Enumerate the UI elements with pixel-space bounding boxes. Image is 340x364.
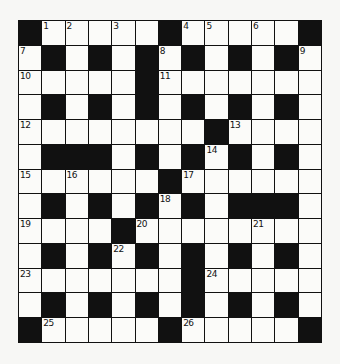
crossword-cell[interactable] [112, 194, 134, 218]
crossword-cell[interactable] [299, 194, 321, 218]
crossword-cell[interactable] [252, 145, 274, 169]
crossword-cell[interactable] [299, 219, 321, 243]
crossword-cell[interactable] [229, 269, 251, 293]
crossword-cell[interactable]: 22 [112, 244, 134, 268]
crossword-cell[interactable]: 16 [66, 170, 88, 194]
crossword-cell[interactable] [182, 120, 204, 144]
crossword-cell[interactable] [252, 244, 274, 268]
crossword-cell[interactable] [275, 21, 297, 45]
crossword-cell[interactable]: 19 [19, 219, 41, 243]
crossword-cell[interactable] [136, 21, 158, 45]
crossword-cell[interactable] [159, 219, 181, 243]
crossword-cell[interactable] [19, 145, 41, 169]
crossword-cell[interactable] [299, 244, 321, 268]
crossword-cell[interactable] [159, 120, 181, 144]
crossword-cell[interactable]: 2 [66, 21, 88, 45]
crossword-cell[interactable] [89, 219, 111, 243]
crossword-cell[interactable] [112, 95, 134, 119]
crossword-cell[interactable] [205, 95, 227, 119]
crossword-cell[interactable]: 10 [19, 71, 41, 95]
crossword-cell[interactable] [66, 194, 88, 218]
crossword-cell[interactable] [112, 120, 134, 144]
crossword-cell[interactable] [19, 194, 41, 218]
crossword-cell[interactable]: 15 [19, 170, 41, 194]
crossword-cell[interactable] [112, 170, 134, 194]
crossword-cell[interactable] [252, 318, 274, 342]
crossword-cell[interactable]: 3 [112, 21, 134, 45]
crossword-cell[interactable] [66, 71, 88, 95]
crossword-cell[interactable] [66, 120, 88, 144]
crossword-cell[interactable]: 4 [182, 21, 204, 45]
crossword-cell[interactable] [205, 293, 227, 317]
crossword-cell[interactable] [275, 170, 297, 194]
crossword-cell[interactable]: 18 [159, 194, 181, 218]
crossword-cell[interactable] [19, 293, 41, 317]
crossword-cell[interactable] [299, 269, 321, 293]
crossword-cell[interactable]: 8 [159, 46, 181, 70]
crossword-cell[interactable] [136, 269, 158, 293]
crossword-cell[interactable] [136, 318, 158, 342]
crossword-cell[interactable] [112, 71, 134, 95]
crossword-cell[interactable]: 6 [252, 21, 274, 45]
crossword-cell[interactable] [205, 318, 227, 342]
crossword-cell[interactable] [299, 71, 321, 95]
crossword-cell[interactable] [252, 269, 274, 293]
crossword-cell[interactable]: 12 [19, 120, 41, 144]
crossword-cell[interactable] [205, 194, 227, 218]
crossword-cell[interactable] [112, 46, 134, 70]
crossword-cell[interactable]: 23 [19, 269, 41, 293]
crossword-cell[interactable] [205, 71, 227, 95]
crossword-cell[interactable] [229, 318, 251, 342]
crossword-cell[interactable] [89, 120, 111, 144]
crossword-cell[interactable]: 13 [229, 120, 251, 144]
crossword-cell[interactable] [112, 293, 134, 317]
crossword-cell[interactable] [229, 219, 251, 243]
crossword-cell[interactable] [275, 318, 297, 342]
crossword-cell[interactable] [205, 219, 227, 243]
crossword-cell[interactable] [205, 46, 227, 70]
crossword-cell[interactable] [89, 318, 111, 342]
crossword-cell[interactable]: 14 [205, 145, 227, 169]
crossword-cell[interactable]: 25 [42, 318, 64, 342]
crossword-cell[interactable] [275, 120, 297, 144]
crossword-cell[interactable] [275, 71, 297, 95]
crossword-cell[interactable]: 26 [182, 318, 204, 342]
crossword-cell[interactable] [229, 170, 251, 194]
crossword-cell[interactable] [299, 145, 321, 169]
crossword-cell[interactable] [252, 170, 274, 194]
crossword-cell[interactable] [89, 21, 111, 45]
crossword-cell[interactable] [159, 95, 181, 119]
crossword-cell[interactable] [252, 293, 274, 317]
crossword-cell[interactable]: 21 [252, 219, 274, 243]
crossword-cell[interactable] [205, 244, 227, 268]
crossword-cell[interactable] [299, 120, 321, 144]
crossword-cell[interactable] [89, 170, 111, 194]
crossword-cell[interactable] [299, 293, 321, 317]
crossword-cell[interactable] [205, 170, 227, 194]
crossword-cell[interactable] [66, 244, 88, 268]
crossword-cell[interactable] [299, 170, 321, 194]
crossword-cell[interactable] [42, 269, 64, 293]
crossword-cell[interactable] [66, 293, 88, 317]
crossword-cell[interactable] [89, 71, 111, 95]
crossword-cell[interactable] [229, 21, 251, 45]
crossword-cell[interactable] [252, 71, 274, 95]
crossword-cell[interactable]: 9 [299, 46, 321, 70]
crossword-cell[interactable] [229, 71, 251, 95]
crossword-cell[interactable]: 24 [205, 269, 227, 293]
crossword-cell[interactable] [42, 170, 64, 194]
crossword-cell[interactable] [275, 269, 297, 293]
crossword-cell[interactable] [275, 219, 297, 243]
crossword-cell[interactable] [112, 269, 134, 293]
crossword-cell[interactable] [66, 95, 88, 119]
crossword-cell[interactable] [66, 318, 88, 342]
crossword-cell[interactable] [42, 120, 64, 144]
crossword-cell[interactable]: 5 [205, 21, 227, 45]
crossword-cell[interactable] [112, 318, 134, 342]
crossword-cell[interactable] [66, 46, 88, 70]
crossword-cell[interactable]: 11 [159, 71, 181, 95]
crossword-cell[interactable] [112, 145, 134, 169]
crossword-cell[interactable] [19, 95, 41, 119]
crossword-cell[interactable]: 20 [136, 219, 158, 243]
crossword-cell[interactable] [42, 219, 64, 243]
